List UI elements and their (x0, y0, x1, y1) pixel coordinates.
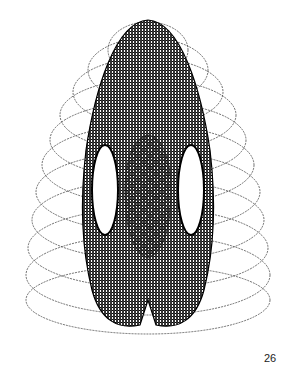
page-number: 26 (264, 352, 276, 364)
left-opening (92, 145, 118, 235)
right-opening (178, 145, 204, 235)
inner-core (125, 135, 171, 258)
mesh-illustration (0, 0, 297, 370)
